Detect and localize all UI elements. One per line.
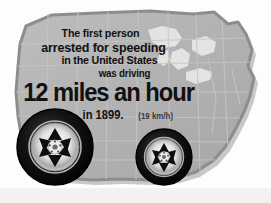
footer-strip xyxy=(0,188,271,203)
speeding-trivia-infographic: The first person arrested for speeding i… xyxy=(0,0,271,203)
front-wheel xyxy=(17,109,93,185)
rear-wheel xyxy=(136,129,192,185)
usa-map-illustration xyxy=(0,0,271,203)
